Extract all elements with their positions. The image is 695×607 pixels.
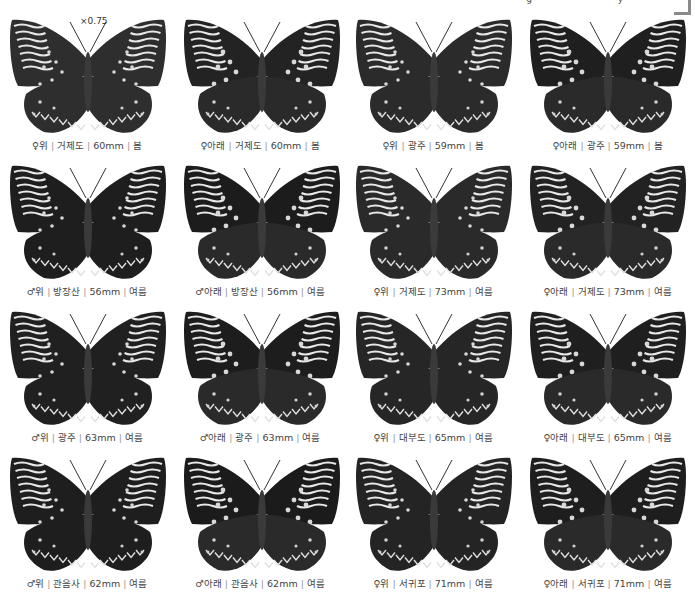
wingspan-label: 73mm bbox=[614, 286, 645, 297]
separator: | bbox=[262, 140, 271, 151]
butterfly-specimen-image bbox=[4, 304, 172, 428]
specimen-caption: ♀아래|서귀포|71mm|여름 bbox=[520, 576, 695, 590]
season-label: 여름 bbox=[654, 286, 672, 297]
specimen-cell: ♀아래|서귀포|71mm|여름 bbox=[520, 450, 695, 596]
season-label: 여름 bbox=[475, 432, 493, 443]
separator: | bbox=[389, 286, 398, 297]
butterfly-icon bbox=[178, 12, 346, 136]
wingspan-label: 63mm bbox=[263, 432, 294, 443]
specimen-cell: ♀아래|거제도|60mm|봄 bbox=[174, 12, 346, 158]
season-label: 여름 bbox=[125, 432, 143, 443]
separator: | bbox=[644, 432, 653, 443]
sex-side-label: ♀위 bbox=[373, 578, 389, 589]
butterfly-specimen-image bbox=[178, 158, 346, 282]
wingspan-label: 71mm bbox=[614, 578, 645, 589]
separator: | bbox=[426, 578, 435, 589]
specimen-caption: ♀위|거제도|73mm|여름 bbox=[346, 284, 520, 298]
separator: | bbox=[605, 578, 614, 589]
specimen-caption: ♀아래|거제도|73mm|여름 bbox=[520, 284, 695, 298]
sex-side-label: ♀위 bbox=[32, 140, 48, 151]
season-label: 봄 bbox=[654, 140, 663, 151]
separator: | bbox=[49, 432, 58, 443]
butterfly-specimen-image bbox=[350, 304, 518, 428]
wingspan-label: 56mm bbox=[90, 286, 121, 297]
wingspan-label: 60mm bbox=[271, 140, 302, 151]
sex-side-label: ♀아래 bbox=[543, 578, 568, 589]
butterfly-icon bbox=[4, 158, 172, 282]
separator: | bbox=[465, 140, 474, 151]
sex-side-label: ♂위 bbox=[27, 286, 45, 297]
separator: | bbox=[426, 432, 435, 443]
season-label: 여름 bbox=[475, 578, 493, 589]
butterfly-specimen-image bbox=[350, 12, 518, 136]
separator: | bbox=[568, 286, 577, 297]
season-label: 여름 bbox=[129, 578, 147, 589]
locality-label: 광주 bbox=[58, 432, 76, 443]
butterfly-icon bbox=[350, 304, 518, 428]
season-label: 여름 bbox=[302, 432, 320, 443]
specimen-caption: ♀위|광주|59mm|봄 bbox=[346, 138, 520, 152]
wingspan-label: 56mm bbox=[267, 286, 298, 297]
separator: | bbox=[389, 578, 398, 589]
sex-side-label: ♂아래 bbox=[195, 578, 222, 589]
butterfly-specimen-image bbox=[350, 158, 518, 282]
wingspan-label: 62mm bbox=[90, 578, 121, 589]
wingspan-label: 71mm bbox=[435, 578, 466, 589]
season-label: 여름 bbox=[307, 286, 325, 297]
butterfly-specimen-image bbox=[4, 450, 172, 574]
specimen-cell: ♀위|서귀포|71mm|여름 bbox=[346, 450, 520, 596]
butterfly-icon bbox=[524, 450, 692, 574]
separator: | bbox=[120, 286, 129, 297]
wingspan-label: 65mm bbox=[614, 432, 645, 443]
butterfly-icon bbox=[178, 304, 346, 428]
season-label: 여름 bbox=[654, 578, 672, 589]
separator: | bbox=[426, 286, 435, 297]
separator: | bbox=[389, 432, 398, 443]
separator: | bbox=[426, 140, 435, 151]
butterfly-icon bbox=[524, 304, 692, 428]
locality-label: 서귀포 bbox=[399, 578, 426, 589]
separator: | bbox=[465, 286, 474, 297]
butterfly-icon bbox=[178, 158, 346, 282]
season-label: 여름 bbox=[475, 286, 493, 297]
butterfly-icon bbox=[350, 12, 518, 136]
specimen-cell: ♂아래|광주|63mm|여름 bbox=[174, 304, 346, 450]
locality-label: 거제도 bbox=[57, 140, 84, 151]
separator: | bbox=[605, 140, 614, 151]
locality-label: 거제도 bbox=[578, 286, 605, 297]
butterfly-icon bbox=[178, 450, 346, 574]
specimen-cell: ♂아래|관음사|62mm|여름 bbox=[174, 450, 346, 596]
specimen-caption: ♀아래|광주|59mm|봄 bbox=[520, 138, 695, 152]
specimen-caption: ♀위|대부도|65mm|여름 bbox=[346, 430, 520, 444]
separator: | bbox=[644, 286, 653, 297]
specimen-cell: ♀위|대부도|65mm|여름 bbox=[346, 304, 520, 450]
sex-side-label: ♂아래 bbox=[200, 432, 227, 443]
butterfly-icon bbox=[524, 12, 692, 136]
scale-note: ×0.75 bbox=[80, 16, 108, 26]
specimen-caption: ♂아래|광주|63mm|여름 bbox=[174, 430, 346, 444]
separator: | bbox=[226, 432, 235, 443]
separator: | bbox=[84, 140, 93, 151]
locality-label: 방장산 bbox=[53, 286, 80, 297]
specimen-caption: ♂위|관음사|62mm|여름 bbox=[0, 576, 174, 590]
separator: | bbox=[222, 578, 231, 589]
locality-label: 광주 bbox=[235, 432, 253, 443]
separator: | bbox=[568, 578, 577, 589]
specimen-cell: ♀아래|광주|59mm|봄 bbox=[520, 12, 695, 158]
separator: | bbox=[116, 432, 125, 443]
locality-label: 거제도 bbox=[235, 140, 262, 151]
separator: | bbox=[465, 578, 474, 589]
locality-label: 거제도 bbox=[399, 286, 426, 297]
butterfly-icon bbox=[350, 158, 518, 282]
season-label: 여름 bbox=[129, 286, 147, 297]
specimen-caption: ♀아래|거제도|60mm|봄 bbox=[174, 138, 346, 152]
locality-label: 관음사 bbox=[53, 578, 80, 589]
locality-label: 관음사 bbox=[231, 578, 258, 589]
specimen-plate-grid: ♀위|거제도|60mm|봄 ×0.75 ♀아래|거제도|60mm|봄 bbox=[0, 12, 695, 596]
wingspan-label: 59mm bbox=[435, 140, 466, 151]
butterfly-specimen-image bbox=[4, 158, 172, 282]
butterfly-specimen-image bbox=[350, 450, 518, 574]
season-label: 봄 bbox=[475, 140, 484, 151]
season-label: 봄 bbox=[133, 140, 142, 151]
locality-label: 대부도 bbox=[399, 432, 426, 443]
